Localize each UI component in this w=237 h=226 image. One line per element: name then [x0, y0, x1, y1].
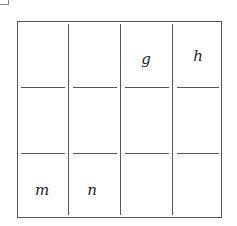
vertical-divider-2 — [120, 24, 121, 215]
cell-label-n: n — [87, 181, 97, 199]
corner-mark — [0, 0, 9, 5]
cell-label-m: m — [35, 181, 49, 199]
row-divider-2-col-4 — [177, 153, 219, 154]
row-divider-1-col-3 — [125, 87, 169, 88]
vertical-divider-1 — [68, 24, 69, 215]
row-divider-2-col-1 — [21, 153, 65, 154]
row-divider-2-col-3 — [125, 153, 169, 154]
grid-diagram: g h m n — [17, 21, 222, 218]
cell-label-h: h — [193, 47, 203, 65]
row-divider-1-col-2 — [73, 87, 117, 88]
row-divider-1-col-4 — [177, 87, 219, 88]
row-divider-1-col-1 — [21, 87, 65, 88]
cell-label-g: g — [141, 50, 151, 68]
row-divider-2-col-2 — [73, 153, 117, 154]
vertical-divider-3 — [172, 24, 173, 215]
